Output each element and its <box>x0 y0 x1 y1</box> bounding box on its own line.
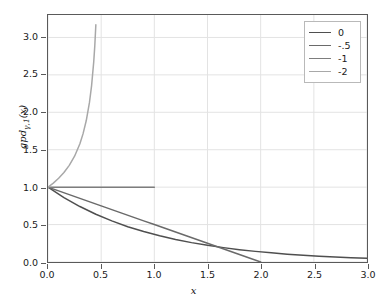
y-axis-label: gpdγ,1(x) <box>17 57 31 197</box>
y-tick-label: 0.5 <box>0 220 38 230</box>
x-tick-mark <box>315 264 316 269</box>
x-tick-mark <box>47 264 48 269</box>
y-tick-mark <box>41 112 46 113</box>
legend[interactable]: 0 -.5 -1 -2 <box>304 21 361 83</box>
legend-item-0[interactable]: 0 <box>309 26 354 39</box>
x-tick-label: 2.0 <box>241 270 281 280</box>
x-tick-label: 3.0 <box>348 270 387 280</box>
x-tick-mark <box>208 264 209 269</box>
legend-item-label: 0 <box>338 26 354 39</box>
x-tick-mark <box>101 264 102 269</box>
x-tick-mark <box>154 264 155 269</box>
legend-line-icon <box>309 71 331 72</box>
legend-item--.5[interactable]: -.5 <box>309 39 354 52</box>
legend-line-icon <box>309 58 331 59</box>
legend-line-icon <box>309 32 331 33</box>
x-tick-label: 0.0 <box>27 270 67 280</box>
y-tick-mark <box>41 74 46 75</box>
y-tick-mark <box>41 263 46 264</box>
legend-line-icon <box>309 45 331 46</box>
x-axis-label: x <box>0 285 387 296</box>
y-tick-mark <box>41 188 46 189</box>
series-0 <box>48 187 367 258</box>
x-tick-label: 0.5 <box>81 270 121 280</box>
y-tick-label: 0.0 <box>0 258 38 268</box>
y-tick-mark <box>41 150 46 151</box>
x-tick-label: 1.5 <box>188 270 228 280</box>
legend-item--2[interactable]: -2 <box>309 65 354 78</box>
legend-item--1[interactable]: -1 <box>309 52 354 65</box>
x-tick-mark <box>368 264 369 269</box>
series--2 <box>48 25 96 187</box>
gpd-density-chart: 0.00.51.01.52.02.53.0 0 -.5 -1 -2 0.00.5… <box>0 0 387 301</box>
y-tick-mark <box>41 225 46 226</box>
legend-item-label: -.5 <box>338 39 354 52</box>
plot-area: 0 -.5 -1 -2 <box>47 14 368 263</box>
y-tick-mark <box>41 37 46 38</box>
x-tick-label: 2.5 <box>295 270 335 280</box>
legend-item-label: -1 <box>338 52 354 65</box>
y-tick-label: 3.0 <box>0 32 38 42</box>
x-tick-mark <box>261 264 262 269</box>
legend-item-label: -2 <box>338 65 354 78</box>
series--.5 <box>48 187 261 262</box>
x-tick-label: 1.0 <box>134 270 174 280</box>
